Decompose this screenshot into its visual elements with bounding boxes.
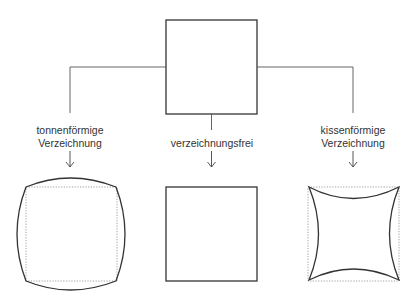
label-barrel-line2: Verzeichnung [20, 137, 120, 150]
reference-square-dotted [308, 187, 399, 281]
arrow-down-icon [208, 151, 216, 167]
reference-square-dotted [26, 187, 117, 281]
undistorted-square [166, 187, 257, 281]
arrow-down-icon [349, 151, 357, 167]
label-none: verzeichnungsfrei [156, 137, 268, 150]
pincushion-distorted-shape [309, 187, 399, 280]
arrow-down-icon [66, 151, 74, 167]
barrel-distorted-shape [17, 178, 125, 290]
connector-left [70, 67, 166, 113]
label-pincushion-line2: Verzeichnung [303, 137, 403, 150]
connector-right [257, 67, 353, 113]
label-barrel: tonnenförmige Verzeichnung [20, 124, 120, 150]
label-none-line1: verzeichnungsfrei [156, 137, 268, 150]
source-square [166, 20, 257, 114]
label-barrel-line1: tonnenförmige [20, 124, 120, 137]
distortion-diagram [0, 0, 420, 301]
label-pincushion: kissenförmige Verzeichnung [303, 124, 403, 150]
label-pincushion-line1: kissenförmige [303, 124, 403, 137]
